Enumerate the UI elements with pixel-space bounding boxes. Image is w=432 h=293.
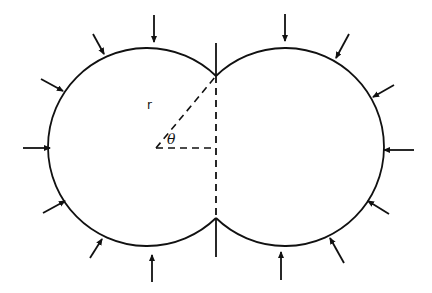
arrow-right-lower-2-icon xyxy=(330,238,344,263)
arrow-right-upper-2-icon xyxy=(373,85,394,97)
arrow-left-upper-2-icon xyxy=(41,79,63,91)
bubble-contact-diagram xyxy=(0,0,432,293)
arrow-right-upper-1-icon xyxy=(336,34,349,58)
right-bubble-arc xyxy=(216,48,384,246)
radius-label: r xyxy=(147,98,152,112)
left-bubble-arc xyxy=(48,48,216,246)
arrow-left-lower-2-icon xyxy=(90,239,102,258)
compression-arrows xyxy=(23,14,414,282)
angle-theta-label: θ xyxy=(167,131,175,147)
arrow-left-lower-1-icon xyxy=(43,201,65,213)
arrow-right-lower-1-icon xyxy=(368,201,389,214)
radius-line xyxy=(156,76,216,148)
arrow-left-upper-1-icon xyxy=(93,34,104,54)
